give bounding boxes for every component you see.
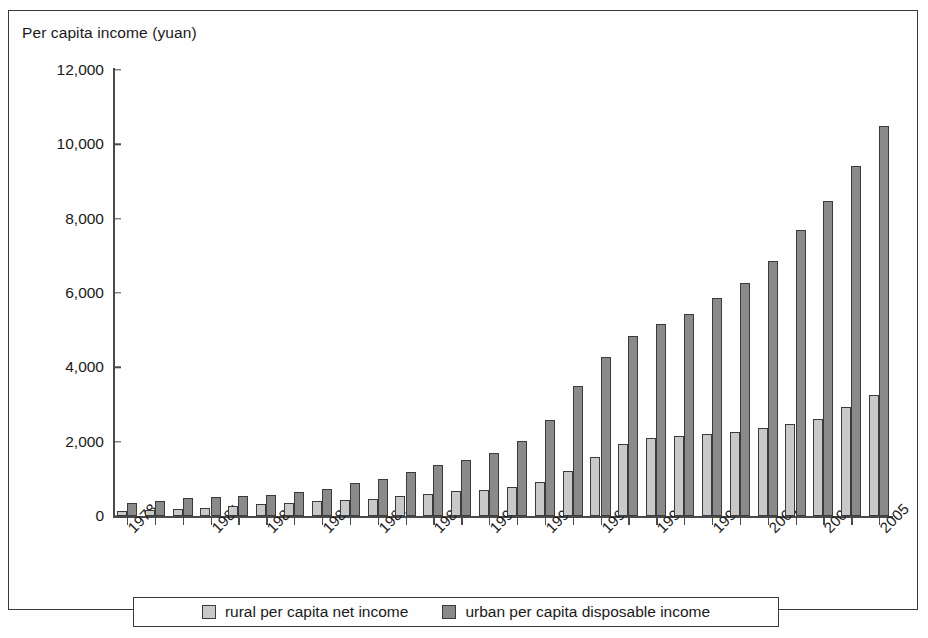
bar-urban-1990: [461, 460, 471, 516]
x-axis-tick: [461, 517, 462, 525]
y-axis-tick-label: 2,000: [0, 433, 104, 451]
y-axis-tick-label: 6,000: [0, 284, 104, 302]
y-axis-tick-label: 0: [0, 507, 104, 525]
bar-urban-1994: [573, 386, 583, 516]
bar-urban-1991: [489, 453, 499, 516]
bar-urban-1999: [712, 298, 722, 516]
bar-urban-1985: [322, 489, 332, 516]
bar-rural-1991: [479, 490, 489, 516]
y-axis-tick-label: 8,000: [0, 210, 104, 228]
bar-urban-1997: [656, 324, 666, 516]
bar-rural-1996: [618, 444, 628, 516]
chart-legend: rural per capita net income urban per ca…: [133, 597, 779, 627]
x-axis-tick: [294, 517, 295, 525]
bars-layer: [113, 70, 893, 516]
legend-item-rural: rural per capita net income: [202, 603, 409, 621]
legend-label-rural: rural per capita net income: [225, 603, 409, 621]
x-axis-tick: [350, 517, 351, 525]
bar-rural-1979: [145, 510, 155, 516]
x-axis-tick: [183, 517, 184, 525]
bar-rural-1990: [451, 491, 461, 516]
bar-rural-1985: [312, 501, 322, 516]
legend-label-urban: urban per capita disposable income: [465, 603, 710, 621]
x-axis-tick: [851, 517, 852, 525]
bar-rural-1978: [117, 511, 127, 516]
x-axis-tick: [238, 517, 239, 525]
bar-urban-1980: [183, 498, 193, 516]
x-axis-tick: [740, 517, 741, 525]
bar-urban-1978: [127, 503, 137, 516]
bar-urban-1986: [350, 483, 360, 516]
bar-urban-2003: [823, 201, 833, 516]
bar-urban-1988: [406, 472, 416, 516]
bar-urban-1982: [238, 496, 248, 516]
bar-urban-1979: [155, 501, 165, 516]
bar-rural-1986: [340, 500, 350, 516]
chart-title: Per capita income (yuan): [22, 24, 197, 42]
bar-urban-1993: [545, 420, 555, 516]
bar-rural-1984: [284, 503, 294, 516]
bar-rural-1980: [173, 509, 183, 516]
y-axis-tick-label: 12,000: [0, 61, 104, 79]
bar-rural-2002: [785, 424, 795, 516]
bar-rural-1994: [563, 471, 573, 516]
y-axis-tick-label: 10,000: [0, 135, 104, 153]
bar-urban-2001: [768, 261, 778, 516]
bar-rural-1988: [395, 496, 405, 516]
bar-rural-1987: [368, 499, 378, 516]
bar-urban-1984: [294, 492, 304, 516]
bar-rural-1983: [256, 504, 266, 516]
legend-item-urban: urban per capita disposable income: [442, 603, 710, 621]
x-axis-tick: [155, 517, 156, 525]
bar-urban-2004: [851, 166, 861, 516]
bar-rural-1995: [590, 457, 600, 516]
bar-rural-1999: [702, 434, 712, 516]
bar-rural-1989: [423, 494, 433, 516]
bar-rural-1997: [646, 438, 656, 516]
bar-urban-2002: [796, 230, 806, 516]
x-axis-tick: [573, 517, 574, 525]
bar-urban-2005: [879, 126, 889, 516]
x-axis-tick: [796, 517, 797, 525]
bar-rural-2003: [813, 419, 823, 516]
x-axis-tick: [684, 517, 685, 525]
bar-urban-1998: [684, 314, 694, 516]
bar-rural-1992: [507, 487, 517, 516]
bar-rural-2001: [758, 428, 768, 516]
x-axis-tick: [628, 517, 629, 525]
bar-rural-2000: [730, 432, 740, 516]
bar-rural-1993: [535, 482, 545, 516]
bar-rural-1998: [674, 436, 684, 516]
bar-urban-1983: [266, 495, 276, 516]
bar-rural-2005: [869, 395, 879, 516]
bar-urban-1995: [601, 357, 611, 516]
bar-urban-1987: [378, 479, 388, 516]
bar-urban-1989: [433, 465, 443, 516]
bar-rural-1981: [200, 508, 210, 516]
bar-urban-2000: [740, 283, 750, 516]
bar-urban-1996: [628, 336, 638, 516]
y-axis-tick-label: 4,000: [0, 358, 104, 376]
x-axis-tick: [517, 517, 518, 525]
bar-rural-2004: [841, 407, 851, 516]
x-axis-tick: [406, 517, 407, 525]
bar-rural-1982: [228, 506, 238, 516]
bar-urban-1992: [517, 441, 527, 516]
legend-swatch-urban-icon: [442, 605, 456, 619]
bar-urban-1981: [211, 497, 221, 516]
legend-swatch-rural-icon: [202, 605, 216, 619]
figure-container: Per capita income (yuan) 02,0004,0006,00…: [0, 0, 928, 638]
